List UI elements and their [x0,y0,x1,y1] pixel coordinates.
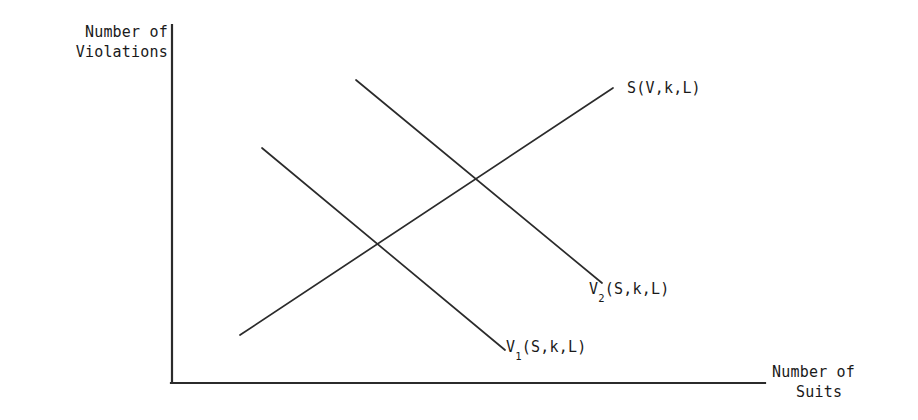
curve-label-v2-subscript: 2 [598,292,605,304]
y-axis-title: Number ofViolations [50,22,168,62]
curve-label-v2: V2(S,k,L) [589,279,669,299]
curve-label-v2-args: (S,k,L) [605,280,670,298]
curve-v1 [262,148,505,350]
x-axis-title: Number ofSuits [772,362,912,402]
x-axis-title-line1: Number of [772,363,855,381]
y-axis-title-line2: Violations [76,43,168,61]
diagram-svg [0,0,918,420]
curve-label-v2-base: V [589,280,598,298]
x-axis-title-line2: Suits [772,382,912,402]
curve-v2 [356,80,602,283]
curve-label-s: S(V,k,L) [627,78,701,98]
curve-s [240,88,613,335]
y-axis-title-line1: Number of [85,23,168,41]
curve-label-v1: V1(S,k,L) [506,337,586,357]
curve-label-s-text: S(V,k,L) [627,79,701,97]
curve-label-v1-args: (S,k,L) [522,338,587,356]
diagram-canvas: Number ofViolations Number ofSuits S(V,k… [0,0,918,420]
curve-label-v1-subscript: 1 [515,350,522,362]
curve-label-v1-base: V [506,338,515,356]
